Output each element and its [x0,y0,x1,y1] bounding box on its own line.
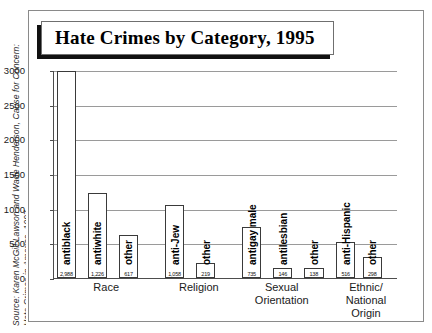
bar-value-5: 735 [242,271,262,277]
ytick-label-1000: 1000 [0,204,25,215]
bar-value-7: 138 [304,271,324,277]
ytick-label-1500: 1500 [0,169,25,180]
category-label-2: SexualOrientation [241,281,323,307]
bar-label-text-1: antiwhite [92,222,103,265]
ytick-label-2500: 2500 [0,100,25,111]
bar-value-6: 146 [273,271,293,277]
gridline-2000 [54,140,397,141]
ytick-label-0: 0 [0,273,25,284]
category-label-3: Ethnic/National Origin [335,281,397,320]
ytick-label-3000: 3000 [0,65,25,76]
ytick-mark-2000 [50,140,54,141]
bar-label-text-3: anti-Jew [170,225,181,265]
ytick-mark-500 [50,244,54,245]
bar-value-4: 219 [196,271,216,277]
bar-label-text-5: antigay male [247,204,258,265]
category-label-line1-3: Ethnic/ [335,281,397,294]
ytick-label-2000: 2000 [0,134,25,145]
category-axis: RaceReligionSexualOrientationEthnic/Nati… [53,281,397,319]
category-label-line1-0: Race [56,281,157,294]
bar-label-text-7: other [309,240,320,265]
source-line-2: Hate Crimes in America, 1997. [22,208,26,326]
bar-label-text-6: antilesbian [278,213,289,265]
category-label-0: Race [56,281,157,294]
gridline-3000 [54,71,397,72]
bar-value-1: 1,226 [88,271,108,277]
category-label-1: Religion [164,281,234,294]
category-label-line1-1: Religion [164,281,234,294]
figure-frame: Hate Crimes by Category, 1995 0500100015… [28,10,424,322]
ytick-label-500: 500 [0,238,25,249]
category-label-line2-2: Orientation [241,294,323,307]
bar-label-text-4: other [201,240,212,265]
bar-label-text-9: other [367,240,378,265]
page-title: Hate Crimes by Category, 1995 [42,27,315,49]
ytick-mark-1500 [50,175,54,176]
bar-value-8: 516 [336,271,356,277]
bar-value-0: 2,988 [57,271,77,277]
chart-title-plaque: Hate Crimes by Category, 1995 [41,21,334,55]
bar-label-text-0: antiblack [61,222,72,265]
bar-value-3: 1,058 [165,271,185,277]
gridline-1500 [54,175,397,176]
ytick-mark-0 [50,279,54,280]
category-label-line2-3: National Origin [335,294,397,320]
bar-label-text-2: other [123,240,134,265]
ytick-mark-2500 [50,106,54,107]
ytick-mark-1000 [50,210,54,211]
ytick-mark-3000 [50,71,54,72]
bar-value-2: 617 [119,271,139,277]
category-label-line1-2: Sexual [241,281,323,294]
plot-area: 050010001500200025003000antiblack2,988an… [53,71,397,279]
gridline-2500 [54,106,397,107]
bar-value-9: 298 [363,271,383,277]
bar-label-text-8: anti-Hispanic [341,202,352,265]
